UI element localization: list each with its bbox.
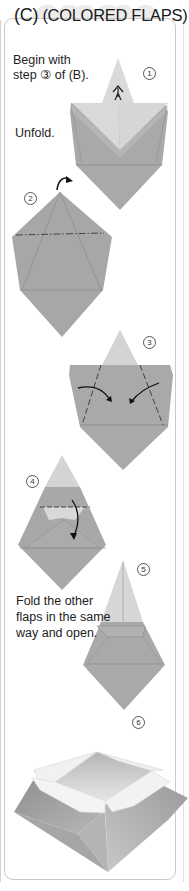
fold-line-2: flaps in the same: [16, 609, 111, 625]
step-3-diagram: [69, 330, 173, 470]
step-number-4: 4: [26, 475, 39, 488]
step-number-2: 2: [24, 192, 37, 205]
fold-line-3: way and open.: [16, 625, 111, 641]
step-number-1: 1: [143, 67, 156, 80]
section-title: (C) (COLORED FLAPS): [14, 5, 187, 26]
step-number-3: 3: [143, 336, 156, 349]
step-6-box-illustration: [14, 752, 188, 872]
begin-line-1: Begin with: [13, 53, 89, 68]
fold-other-instruction: Fold the other flaps in the same way and…: [16, 593, 111, 641]
section-letter: (C): [14, 5, 38, 25]
begin-instruction: Begin with step ③ of (B).: [13, 53, 89, 83]
unfold-instruction: Unfold.: [15, 126, 55, 141]
begin-line-2: step ③ of (B).: [13, 68, 89, 83]
section-name: (COLORED FLAPS): [42, 6, 187, 24]
step-number-6: 6: [132, 716, 145, 729]
fold-line-1: Fold the other: [16, 593, 111, 609]
step-number-5: 5: [137, 563, 150, 576]
